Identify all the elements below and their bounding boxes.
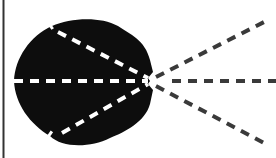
outer-ray-lower: [156, 86, 268, 145]
outer-rays: [156, 20, 276, 145]
ray-diagram: [0, 0, 276, 158]
outer-ray-upper: [156, 20, 268, 77]
